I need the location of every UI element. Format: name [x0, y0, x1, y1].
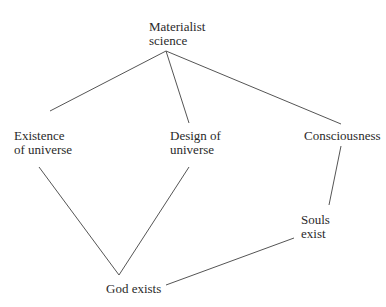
node-label-line: of universe — [14, 143, 72, 157]
node-label-line: exist — [301, 227, 330, 241]
edge-materialist-consciousness — [166, 51, 341, 124]
edge-existence-god — [39, 167, 119, 275]
edge-materialist-existence — [50, 51, 166, 111]
node-label-line: Consciousness — [304, 129, 381, 143]
node-label-line: universe — [170, 143, 221, 157]
node-label-line: Souls — [301, 213, 330, 227]
node-label-line: Design of — [170, 129, 221, 143]
node-design-of-universe: Design of universe — [170, 129, 221, 157]
edge-design-god — [119, 167, 189, 275]
node-souls-exist: Souls exist — [301, 213, 330, 241]
node-god-exists: God exists — [106, 282, 161, 296]
node-label-line: God exists — [106, 282, 161, 296]
node-existence-of-universe: Existence of universe — [14, 129, 72, 157]
node-label-line: Existence — [14, 129, 72, 143]
edge-souls-god — [166, 238, 294, 285]
node-label-line: Materialist — [149, 20, 205, 34]
edge-materialist-design — [166, 51, 189, 123]
edge-consciousness-souls — [329, 146, 341, 205]
node-consciousness: Consciousness — [304, 129, 381, 143]
node-label-line: science — [149, 34, 205, 48]
node-materialist-science: Materialist science — [149, 20, 205, 48]
